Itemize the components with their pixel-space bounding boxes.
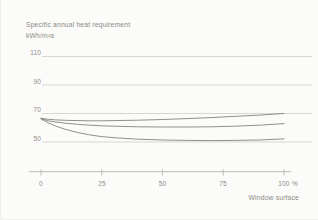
lower-curve: [41, 119, 284, 141]
upper-curve: [41, 114, 284, 121]
x-tick-label-25: 25: [92, 180, 112, 188]
x-tick-label-75: 75: [213, 180, 233, 188]
x-axis-title: Window surface: [249, 194, 299, 202]
x-tick-label-0: 0: [31, 180, 51, 188]
x-tick-label-50: 50: [153, 180, 173, 188]
plot-area: [1, 0, 318, 220]
chart-page: Specific annual heat requirement kWh/m²a…: [0, 0, 318, 220]
x-tick-label-100: 100: [274, 180, 294, 188]
x-axis-unit-label: %: [292, 180, 298, 188]
